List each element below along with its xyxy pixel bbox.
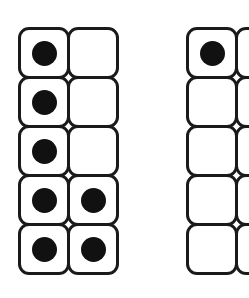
counter-dot-icon (81, 188, 106, 213)
frame-cell (18, 27, 70, 79)
frame-cell (67, 27, 119, 79)
frame-cell (67, 76, 119, 128)
frame-cell (235, 27, 249, 79)
frame-cell (67, 174, 119, 226)
frame-cell (186, 125, 238, 177)
frame-cell (186, 174, 238, 226)
counter-dot-icon (32, 188, 57, 213)
frame-cell (235, 223, 249, 275)
frame-cell (186, 223, 238, 275)
frame-cell (18, 125, 70, 177)
frame-cell (186, 76, 238, 128)
counter-dot-icon (32, 237, 57, 262)
counter-dot-icon (32, 139, 57, 164)
frame-cell (186, 27, 238, 79)
counter-dot-icon (81, 237, 106, 262)
counter-dot-icon (32, 41, 57, 66)
frame-cell (235, 174, 249, 226)
frame-cell (18, 174, 70, 226)
frame-cell (67, 125, 119, 177)
frame-cell (67, 223, 119, 275)
frame-cell (18, 223, 70, 275)
frame-cell (18, 76, 70, 128)
counter-dot-icon (32, 90, 57, 115)
frame-cell (235, 76, 249, 128)
frame-cell (235, 125, 249, 177)
counter-dot-icon (200, 41, 225, 66)
